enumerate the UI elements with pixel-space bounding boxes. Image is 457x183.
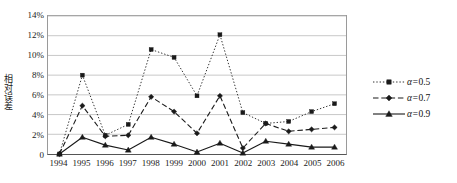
data-point (148, 134, 154, 139)
data-point (126, 133, 131, 138)
series-3 (56, 134, 337, 156)
plot-area (47, 15, 347, 155)
x-tick-label: 2006 (317, 157, 353, 169)
y-tick-label: 6% (14, 91, 44, 100)
legend-item-2[interactable]: α=0.7 (372, 90, 456, 106)
legend-sample-triangle (372, 107, 406, 121)
data-point (332, 125, 337, 130)
y-tick-label: 2% (14, 131, 44, 140)
data-point (287, 120, 291, 124)
y-tick-label: 12% (14, 31, 44, 40)
data-point (149, 48, 153, 52)
relative-error-line-chart: 相对误差 02%4%6%8%10%12%14% 1994199519961997… (0, 0, 457, 183)
data-point (195, 94, 199, 98)
legend-label: α=0.5 (406, 77, 430, 87)
legend-sample-square (372, 75, 406, 89)
data-point (309, 127, 314, 132)
data-point (333, 102, 337, 106)
y-tick-label: 10% (14, 51, 44, 60)
x-axis-tick-labels: 1994199519961997199819992000200120022003… (47, 157, 347, 173)
legend-label: α=0.7 (406, 93, 430, 103)
chart-legend: α=0.5α=0.7α=0.9 (372, 74, 456, 122)
data-point (263, 138, 269, 143)
legend-item-3[interactable]: α=0.9 (372, 106, 456, 122)
legend-sample-diamond (372, 91, 406, 105)
legend-item-1[interactable]: α=0.5 (372, 74, 456, 90)
y-tick-label: 14% (14, 11, 44, 20)
data-point (79, 134, 85, 139)
data-point (286, 129, 291, 134)
series-layer (48, 16, 346, 154)
series-1 (57, 33, 336, 156)
data-point (217, 140, 223, 145)
data-point (310, 110, 314, 114)
data-point (241, 111, 245, 115)
y-tick-label: 8% (14, 71, 44, 80)
y-tick-label: 4% (14, 111, 44, 120)
data-point (126, 122, 130, 126)
y-tick-label: 0 (14, 151, 44, 160)
data-point (218, 33, 222, 37)
legend-label: α=0.9 (406, 109, 430, 119)
data-point (80, 103, 85, 108)
series-2 (57, 93, 337, 156)
y-axis-tick-labels: 02%4%6%8%10%12%14% (14, 10, 46, 156)
data-point (148, 94, 153, 99)
data-point (172, 55, 176, 59)
data-point (217, 93, 222, 98)
data-point (80, 73, 84, 77)
